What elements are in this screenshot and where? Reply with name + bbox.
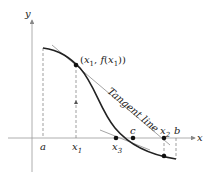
point-label: (x1, f(x1)) <box>80 55 126 68</box>
diagram-graphics <box>0 0 211 181</box>
tick-c: c <box>130 126 136 136</box>
y-axis-label: y <box>25 9 31 19</box>
x-axis-label: x <box>197 133 203 143</box>
newtons-method-diagram: y x (x1, f(x1)) Tangent line a x1 x3 c x… <box>0 0 211 181</box>
tick-a: a <box>40 142 46 152</box>
tick-x2: x2 <box>160 126 170 139</box>
tick-x1: x1 <box>72 142 82 155</box>
tick-b: b <box>174 126 180 136</box>
tick-x3: x3 <box>112 142 122 155</box>
